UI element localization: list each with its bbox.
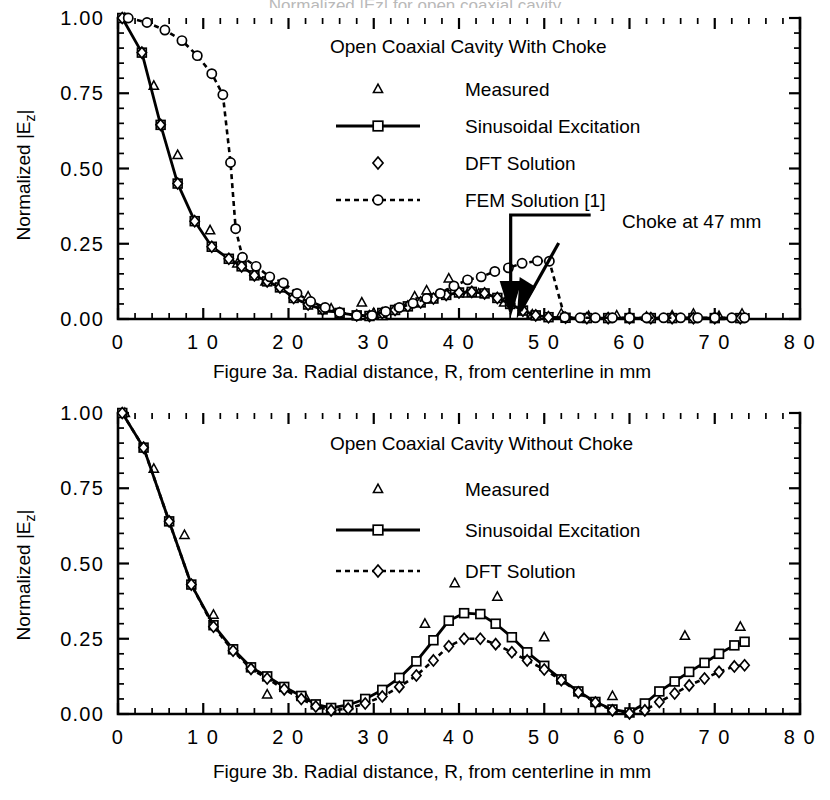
x-ticklabel: 8 0: [784, 331, 817, 353]
marker-square: [670, 677, 679, 686]
legend-item-measured[interactable]: Measured: [373, 79, 549, 100]
y-axis-title-main-3a: Normalized |E: [13, 121, 34, 240]
choke-annotation-label: Choke at 47 mm: [622, 211, 761, 232]
marker-circle: [207, 69, 216, 78]
x-axis-ticks-3a: [118, 18, 800, 319]
marker-triangle: [173, 150, 182, 158]
marker-square: [685, 667, 694, 676]
marker-circle: [218, 90, 227, 99]
x-ticklabel: 0: [112, 726, 125, 748]
marker-square: [429, 636, 438, 645]
x-ticklabel: 4 0: [443, 331, 476, 353]
legend-title-3a: Open Coaxial Cavity With Choke: [330, 36, 607, 57]
marker-triangle: [373, 484, 382, 492]
x-ticklabel: 7 0: [698, 726, 731, 748]
x-ticklabel: 2 0: [272, 726, 305, 748]
x-ticklabel: 5 0: [528, 726, 561, 748]
svg-text:Normalized |Ez|: Normalized |Ez|: [13, 110, 38, 241]
marker-square: [507, 633, 516, 642]
marker-diamond: [429, 655, 438, 666]
x-ticklabel: 8 0: [784, 726, 817, 748]
marker-diamond: [714, 666, 723, 677]
svg-text:Normalized |Ez|: Normalized |Ez|: [13, 510, 38, 641]
legend-label: Measured: [465, 479, 550, 500]
y-axis-title-sub-3a: z: [22, 114, 38, 121]
x-ticklabel: 1 0: [187, 331, 220, 353]
caption-3a: Figure 3a. Radial distance, R, from cent…: [213, 361, 651, 382]
marker-circle: [490, 267, 499, 276]
y-ticklabel: 0.75: [60, 477, 104, 499]
x-ticklabel: 2 0: [272, 331, 305, 353]
legend-label: DFT Solution: [465, 153, 576, 174]
marker-circle: [693, 313, 702, 322]
x-axis-ticklabels-3a: 01 02 03 04 05 06 07 08 0: [112, 331, 817, 353]
marker-triangle: [357, 298, 366, 306]
plot-area-3a: [118, 18, 800, 319]
legend-item-dft-solution[interactable]: DFT Solution: [373, 153, 576, 174]
marker-diamond: [444, 641, 453, 652]
marker-circle: [591, 313, 600, 322]
series-sinusoidal-excitation: [118, 409, 749, 717]
marker-circle: [292, 289, 301, 298]
marker-circle: [422, 294, 431, 303]
y-axis-ticks-3b: [118, 413, 800, 714]
series-group-3a: [118, 13, 750, 324]
marker-triangle: [608, 691, 617, 699]
y-ticklabel: 0.75: [60, 82, 104, 104]
legend-label: Sinusoidal Excitation: [465, 520, 640, 541]
series-line: [122, 413, 744, 713]
chart-panel-3a: 01 02 03 04 05 06 07 08 0 0.000.250.500.…: [0, 0, 830, 400]
legend-item-measured[interactable]: Measured: [373, 479, 549, 500]
marker-circle: [727, 313, 736, 322]
legend-label: Sinusoidal Excitation: [465, 116, 640, 137]
marker-square: [373, 525, 383, 535]
plot-area-3b: [118, 413, 800, 714]
x-ticklabel: 7 0: [698, 331, 731, 353]
marker-circle: [373, 195, 383, 205]
legend-item-sinusoidal-excitation[interactable]: Sinusoidal Excitation: [336, 520, 640, 541]
marker-circle: [449, 281, 458, 290]
marker-circle: [226, 158, 235, 167]
marker-circle: [408, 299, 417, 308]
x-ticklabel: 6 0: [613, 331, 646, 353]
x-ticklabel: 3 0: [357, 331, 390, 353]
axes-frame-3b: [118, 413, 800, 714]
legend-3b: Open Coaxial Cavity Without Choke Measur…: [330, 433, 640, 582]
marker-square: [730, 641, 739, 650]
chart-3a-canvas: 01 02 03 04 05 06 07 08 0 0.000.250.500.…: [0, 0, 830, 400]
legend-item-fem-solution-1[interactable]: FEM Solution [1]: [336, 190, 605, 211]
marker-circle: [642, 313, 651, 322]
marker-diamond: [730, 661, 739, 672]
marker-square: [444, 616, 453, 625]
marker-circle: [124, 13, 133, 22]
marker-triangle: [736, 622, 745, 630]
marker-triangle: [680, 631, 689, 639]
y-ticklabel: 0.00: [60, 308, 104, 330]
marker-circle: [160, 25, 169, 34]
choke-leader-line: [511, 215, 591, 283]
caption-3b: Figure 3b. Radial distance, R, from cent…: [213, 761, 651, 782]
marker-diamond: [373, 157, 383, 169]
y-axis-ticklabels-3a: 0.000.250.500.751.00: [60, 7, 104, 330]
series-line: [122, 413, 744, 713]
marker-circle: [710, 313, 719, 322]
y-ticklabel: 0.00: [60, 703, 104, 725]
marker-circle: [560, 313, 569, 322]
marker-triangle: [450, 578, 459, 586]
marker-circle: [463, 275, 472, 284]
marker-triangle: [373, 84, 382, 92]
marker-square: [373, 121, 383, 131]
marker-square: [476, 610, 485, 619]
legend-label: FEM Solution [1]: [465, 190, 605, 211]
marker-circle: [533, 256, 542, 265]
marker-circle: [659, 313, 668, 322]
y-axis-title-main-3b: Normalized |E: [13, 521, 34, 640]
marker-circle: [142, 18, 151, 27]
y-axis-title-sub-3b: z: [22, 514, 38, 521]
y-axis-title-3a: Normalized |Ez|: [13, 110, 38, 241]
marker-circle: [477, 272, 486, 281]
y-axis-ticks-3a: [118, 18, 800, 319]
marker-circle: [625, 313, 634, 322]
legend-item-sinusoidal-excitation[interactable]: Sinusoidal Excitation: [336, 116, 640, 137]
x-ticklabel: 5 0: [528, 331, 561, 353]
